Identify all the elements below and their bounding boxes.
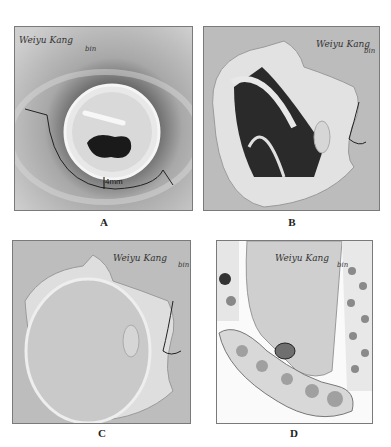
panel-b-label: B (282, 216, 302, 228)
panel-a-illustration: Weiyu Kang bin 4mm (14, 26, 193, 211)
artist-signature-suffix: bin (337, 261, 348, 269)
artist-signature: Weiyu Kang (316, 39, 370, 49)
graft-placement-illustration (13, 241, 191, 424)
artist-signature: Weiyu Kang (19, 35, 73, 45)
panel-d-illustration: Weiyu Kang bin (216, 240, 373, 424)
measurement-annotation: 4mm (105, 177, 123, 186)
artist-signature-suffix: bin (178, 261, 189, 269)
ear-canal-graft-illustration (15, 27, 193, 211)
artist-signature-suffix: bin (364, 47, 375, 55)
panel-c-illustration: Weiyu Kang bin (12, 240, 191, 424)
artist-signature: Weiyu Kang (275, 253, 329, 263)
artist-signature: Weiyu Kang (113, 253, 167, 263)
panel-b-illustration: Weiyu Kang bin (203, 26, 380, 211)
panel-d-label: D (284, 427, 304, 439)
cross-section-illustration (217, 241, 373, 424)
artist-signature-suffix: bin (85, 45, 96, 53)
middle-ear-exposure-illustration (204, 27, 380, 211)
panel-c-label: C (92, 427, 112, 439)
panel-a-label: A (94, 216, 114, 228)
